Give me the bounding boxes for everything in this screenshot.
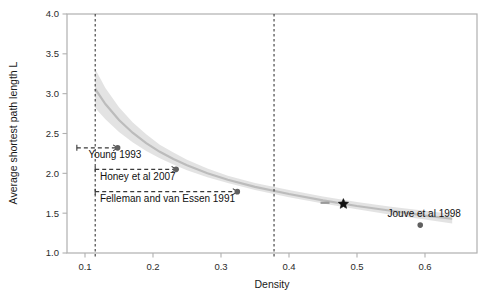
x-tick-label: 0.4	[282, 261, 295, 272]
x-axis-title: Density	[254, 278, 290, 290]
y-tick-label: 3.0	[46, 88, 59, 99]
data-point-circle	[417, 222, 423, 228]
y-tick-label: 2.5	[46, 128, 59, 139]
point-annotations: Young 1993Honey et al 2007Felleman and v…	[88, 149, 461, 219]
y-tick-label: 1.5	[46, 208, 59, 219]
y-tick-label: 3.5	[46, 48, 59, 59]
y-tick-label: 1.0	[46, 247, 59, 258]
x-tick-label: 0.3	[214, 261, 227, 272]
x-tick-label: 0.2	[146, 261, 159, 272]
point-annotation-label: Jouve et al 1998	[388, 208, 462, 219]
chart-figure: 0.10.20.30.40.50.6 1.01.52.02.53.03.54.0…	[0, 0, 502, 298]
scatter-plot: 0.10.20.30.40.50.6 1.01.52.02.53.03.54.0…	[0, 0, 502, 298]
data-point-circle	[235, 189, 241, 195]
y-axis-title: Average shortest path length L	[7, 61, 19, 204]
point-annotation-label: Honey et al 2007	[100, 171, 176, 182]
x-tick-label: 0.6	[418, 261, 431, 272]
point-annotation-label: Felleman and van Essen 1991	[100, 193, 236, 204]
y-tick-label: 2.0	[46, 168, 59, 179]
vertical-reference-lines	[95, 14, 274, 259]
x-axis-ticks: 0.10.20.30.40.50.6	[78, 253, 431, 272]
x-tick-label: 0.5	[350, 261, 363, 272]
y-axis-ticks: 1.01.52.02.53.03.54.0	[46, 8, 67, 258]
y-tick-label: 4.0	[46, 8, 59, 19]
data-point-dash	[321, 202, 330, 204]
point-annotation-label: Young 1993	[88, 149, 141, 160]
x-tick-label: 0.1	[78, 261, 91, 272]
